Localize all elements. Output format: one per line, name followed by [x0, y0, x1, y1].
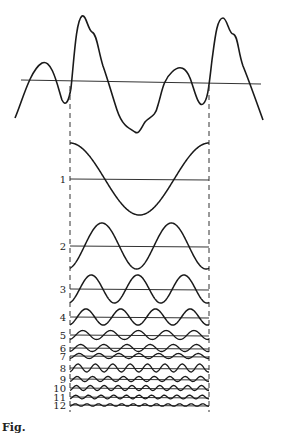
harmonic-4: 4 [60, 309, 209, 325]
composite-curve [15, 16, 263, 133]
harmonic-5: 5 [60, 330, 209, 341]
harmonic-baseline [70, 356, 209, 357]
harmonic-label: 8 [60, 363, 66, 374]
harmonic-baseline [70, 289, 209, 290]
figure-caption: Fig. [2, 421, 26, 434]
harmonic-8: 8 [60, 363, 209, 374]
harmonic-label: 7 [60, 351, 66, 362]
harmonic-baseline [70, 317, 209, 318]
harmonic-10: 10 [53, 383, 209, 394]
harmonic-baseline [70, 388, 209, 389]
composite-waveform [15, 16, 263, 133]
harmonic-2: 2 [60, 223, 209, 269]
harmonic-baseline [70, 179, 209, 180]
harmonic-label: 3 [60, 284, 66, 295]
harmonic-9: 9 [60, 374, 209, 385]
harmonic-components: 123456789101112 [53, 143, 209, 411]
harmonic-1: 1 [60, 143, 209, 215]
harmonic-6: 6 [60, 343, 209, 354]
harmonic-label: 2 [60, 241, 66, 252]
harmonic-label: 4 [60, 312, 66, 323]
harmonic-label: 5 [60, 330, 66, 341]
harmonic-baseline [70, 379, 209, 380]
harmonic-7: 7 [60, 351, 209, 362]
harmonic-label: 1 [60, 174, 66, 185]
harmonic-3: 3 [60, 275, 209, 303]
harmonic-11: 11 [53, 392, 209, 403]
harmonic-label: 12 [53, 400, 66, 411]
harmonic-12: 12 [53, 400, 209, 411]
harmonic-baseline [70, 348, 209, 349]
